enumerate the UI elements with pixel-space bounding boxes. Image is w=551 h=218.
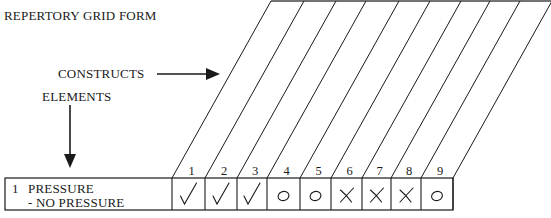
arrow-right-icon xyxy=(157,68,220,80)
circle-icon xyxy=(430,190,443,202)
column-number: 8 xyxy=(406,164,412,178)
circle-icon xyxy=(277,190,290,202)
column-numbers: 123456789 xyxy=(188,164,443,178)
circle-icon xyxy=(309,190,322,202)
column-number: 7 xyxy=(376,164,382,178)
column-number: 2 xyxy=(221,164,227,178)
row-number: 1 xyxy=(12,181,19,197)
cell-dividers xyxy=(172,178,453,210)
cross-icon xyxy=(371,188,384,202)
check-icon xyxy=(213,183,229,204)
cross-icon xyxy=(400,188,413,202)
column-number: 6 xyxy=(346,164,352,178)
rating-marks xyxy=(181,183,444,204)
column-number: 3 xyxy=(252,164,258,178)
column-number: 5 xyxy=(315,164,321,178)
cross-icon xyxy=(341,188,354,202)
check-icon xyxy=(244,183,260,204)
column-number: 4 xyxy=(283,164,290,178)
column-number: 1 xyxy=(188,164,194,178)
arrow-down-icon xyxy=(64,105,76,168)
construct-slant-lines xyxy=(172,1,551,178)
column-number: 9 xyxy=(437,164,443,178)
check-icon xyxy=(181,183,197,204)
construct-pole-2: - NO PRESSURE xyxy=(28,195,125,211)
